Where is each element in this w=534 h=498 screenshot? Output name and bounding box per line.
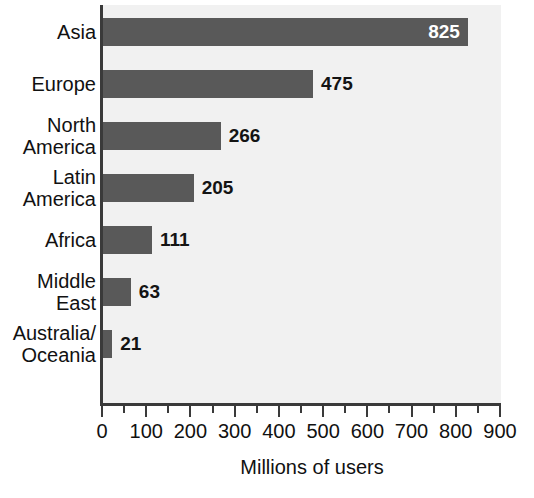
x-tick-minor [256, 406, 258, 413]
bar-value-label: 63 [139, 278, 160, 306]
x-tick-minor [344, 406, 346, 413]
bar-rect [103, 122, 221, 150]
bar-rect [103, 174, 194, 202]
bar-rect [103, 70, 313, 98]
plot-area: 8254752662051116321 [103, 5, 501, 403]
bar-europe: 475 [103, 70, 501, 98]
bar-latin-america: 205 [103, 174, 501, 202]
bar-africa: 111 [103, 226, 501, 254]
category-label: Europe [0, 73, 96, 95]
category-label-line: Oceania [0, 344, 96, 366]
x-tick-major [189, 406, 191, 417]
bar-value-label: 266 [229, 122, 261, 150]
category-label-line: America [0, 188, 96, 210]
bar-rect [103, 330, 112, 358]
x-tick-minor [477, 406, 479, 413]
x-tick-minor [123, 406, 125, 413]
x-tick-major [411, 406, 413, 417]
bar-chart: 8254752662051116321 AsiaEuropeNorthAmeri… [0, 0, 534, 498]
bar-value-label: 475 [321, 70, 353, 98]
x-tick-minor [300, 406, 302, 413]
category-label: NorthAmerica [0, 114, 96, 158]
bar-asia: 825 [103, 18, 501, 46]
category-label: LatinAmerica [0, 166, 96, 210]
bar-value-label: 111 [160, 226, 190, 254]
bar-value-label: 205 [202, 174, 234, 202]
category-label: Africa [0, 229, 96, 251]
x-axis-title: Millions of users [0, 456, 534, 479]
category-label-line: America [0, 136, 96, 158]
x-tick-major [145, 406, 147, 417]
category-label: MiddleEast [0, 270, 96, 314]
x-tick-minor [433, 406, 435, 413]
category-label-line: East [0, 292, 96, 314]
bar-australia-oceania: 21 [103, 330, 501, 358]
x-axis-title-text: Millions of users [150, 456, 383, 479]
x-tick-major [101, 406, 103, 417]
x-tick-minor [212, 406, 214, 413]
x-tick-major [322, 406, 324, 417]
category-label: Australia/Oceania [0, 322, 96, 366]
category-axis-labels: AsiaEuropeNorthAmericaLatinAmericaAfrica… [0, 0, 96, 410]
x-tick-minor [388, 406, 390, 413]
bar-north-america: 266 [103, 122, 501, 150]
bar-rect [103, 226, 152, 254]
x-tick-major [455, 406, 457, 417]
category-label-line: Asia [0, 21, 96, 43]
y-axis-line [100, 5, 103, 406]
x-tick-major [234, 406, 236, 417]
category-label-line: North [0, 114, 96, 136]
x-tick-major [278, 406, 280, 417]
category-label-line: Australia/ [0, 322, 96, 344]
x-tick-major [499, 406, 501, 417]
category-label-line: Latin [0, 166, 96, 188]
bar-value-label: 21 [120, 330, 141, 358]
bar-rect [103, 278, 131, 306]
category-label-line: Europe [0, 73, 96, 95]
bar-rect [103, 18, 468, 46]
bar-middle-east: 63 [103, 278, 501, 306]
category-label-line: Africa [0, 229, 96, 251]
category-label: Asia [0, 21, 96, 43]
bar-value-label: 825 [418, 18, 460, 46]
x-tick-major [366, 406, 368, 417]
x-tick-label: 900 [470, 420, 530, 443]
x-tick-minor [167, 406, 169, 413]
category-label-line: Middle [0, 270, 96, 292]
